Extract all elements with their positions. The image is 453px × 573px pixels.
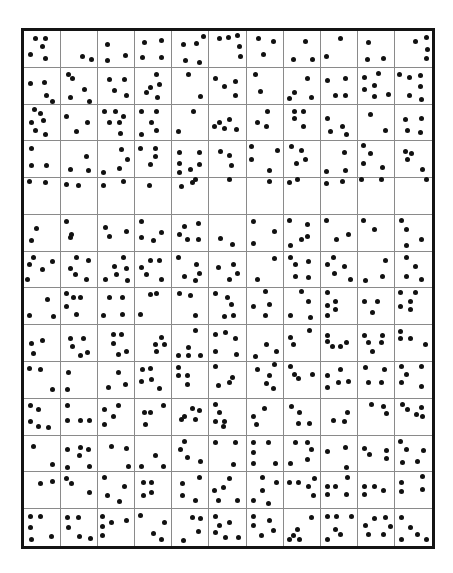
dot (297, 410, 302, 415)
dot (38, 514, 43, 519)
dot (87, 490, 92, 495)
dot (138, 146, 143, 151)
dot (260, 475, 265, 480)
dot (89, 57, 94, 62)
dot (227, 476, 232, 481)
dot (299, 237, 304, 242)
grid-cell (98, 399, 135, 436)
dot (362, 446, 367, 451)
dot (102, 475, 107, 480)
dot (255, 277, 260, 282)
dot (139, 235, 144, 240)
dot (138, 513, 143, 518)
dot (142, 40, 147, 45)
grid-cell (172, 325, 209, 362)
dot (303, 39, 308, 44)
dot (217, 36, 222, 41)
dot (408, 525, 413, 530)
grid-cell (98, 288, 135, 325)
dot (154, 109, 159, 114)
dot (100, 514, 105, 519)
dot (28, 81, 33, 86)
grid-cell (321, 362, 358, 399)
dot (368, 112, 373, 117)
dot (288, 243, 293, 248)
dot (301, 124, 306, 129)
dot (181, 538, 186, 543)
dot (213, 76, 218, 81)
dot (289, 144, 294, 149)
grid-cell (135, 399, 172, 436)
dot (340, 179, 345, 184)
dot (288, 313, 293, 318)
dot (307, 421, 312, 426)
grid-cell (24, 509, 61, 546)
dot (372, 484, 377, 489)
dot (157, 386, 162, 391)
dot (366, 380, 371, 385)
dot (404, 372, 409, 377)
dot (36, 407, 41, 412)
dot (272, 229, 277, 234)
dot (325, 262, 330, 267)
dot (117, 499, 122, 504)
dot (216, 265, 221, 270)
dot (325, 449, 330, 454)
dot (221, 424, 226, 429)
dot (74, 255, 79, 260)
dot (103, 277, 108, 282)
dot (413, 290, 418, 295)
dot (180, 481, 185, 486)
dot (384, 456, 389, 461)
dot (229, 163, 234, 168)
grid-cell (172, 215, 209, 252)
dot (306, 484, 311, 489)
dot (69, 232, 74, 237)
dot (331, 255, 336, 260)
grid-cell (358, 178, 395, 215)
dot (188, 167, 193, 172)
dot (305, 440, 310, 445)
dot (381, 404, 386, 409)
dot (65, 403, 70, 408)
dot (193, 278, 198, 283)
dot (193, 417, 198, 422)
dot (235, 271, 240, 276)
dot (197, 60, 202, 65)
dot (403, 149, 408, 154)
grid-cell (24, 399, 61, 436)
grid-cell (209, 472, 246, 509)
dot (144, 90, 149, 95)
dot (293, 440, 298, 445)
dot (251, 523, 256, 528)
dot (342, 264, 347, 269)
dot (328, 129, 333, 134)
dot (80, 54, 85, 59)
dot (424, 177, 429, 182)
dot (64, 291, 69, 296)
dot (217, 410, 222, 415)
grid-cell (395, 252, 432, 289)
grid-cell (61, 472, 98, 509)
dot (40, 267, 45, 272)
dot (293, 274, 298, 279)
dot (182, 274, 187, 279)
grid-cell (247, 252, 284, 289)
dot (144, 272, 149, 277)
dot (258, 89, 263, 94)
dot (217, 120, 222, 125)
dot (251, 461, 256, 466)
grid-cell (395, 362, 432, 399)
dot (261, 52, 266, 57)
dot (124, 518, 129, 523)
grid-cell (209, 325, 246, 362)
dot (372, 83, 377, 88)
dot (87, 418, 92, 423)
dot (419, 97, 424, 102)
dot (287, 537, 292, 542)
dot (423, 342, 428, 347)
dot (324, 169, 329, 174)
dot (49, 534, 54, 539)
dot (76, 183, 81, 188)
grid-cell (321, 252, 358, 289)
